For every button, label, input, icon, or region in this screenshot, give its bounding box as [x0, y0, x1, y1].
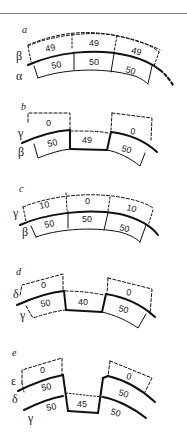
value-e-bottom-1: 50: [45, 401, 57, 413]
value-d-bottom-2: 40: [78, 297, 88, 307]
value-d-top-3: 0: [126, 287, 132, 298]
value-a-bottom-1: 50: [50, 59, 62, 71]
value-c-top-1: 10: [38, 199, 50, 211]
value-b-top-1: 0: [46, 118, 51, 128]
panel-label-a: a: [22, 24, 27, 35]
panel-label-d: d: [16, 266, 22, 277]
panel-label-b: b: [21, 101, 26, 112]
value-d-bottom-1: 50: [40, 297, 52, 309]
layer-label-gamma: γ: [12, 206, 19, 220]
value-e-middle-1: 50: [40, 381, 52, 393]
layer-label-delta: δ: [12, 392, 18, 406]
layer-label-gamma: γ: [27, 411, 34, 425]
layer-label-epsilon: ε: [11, 374, 16, 388]
layer-label-beta: β: [22, 225, 28, 239]
value-e-bottom-2: 45: [77, 399, 87, 409]
layer-label-beta: β: [18, 145, 24, 159]
value-a-top-1: 49: [44, 42, 56, 54]
panel-e: [18, 358, 155, 418]
panel-label-e: e: [12, 347, 17, 358]
panel-label-c: c: [19, 183, 24, 194]
layer-label-gamma: γ: [17, 126, 24, 140]
panel-a: [28, 33, 173, 85]
value-e-bottom-3: 50: [109, 406, 122, 419]
layer-label-beta: β: [16, 49, 22, 63]
layer-label-gamma: γ: [19, 308, 26, 322]
layer-label-delta: δ: [13, 287, 19, 301]
value-c-top-3: 10: [126, 202, 138, 214]
value-c-top-2: 0: [85, 196, 90, 206]
top-rule: [0, 13, 187, 14]
value-d-top-1: 0: [41, 280, 46, 290]
value-b-bottom-2: 49: [82, 135, 92, 145]
value-b-top-3: 0: [130, 126, 136, 137]
value-a-top-3: 49: [131, 45, 143, 57]
value-c-bottom-1: 50: [43, 218, 55, 230]
layer-label-alpha: α: [16, 69, 23, 83]
value-e-middle-3: 50: [117, 387, 129, 399]
value-e-top-1: 0: [40, 365, 45, 375]
value-a-top-2: 49: [89, 38, 99, 48]
diagram-canvas: a β α 49 49 49 50 50 50 b γ β 0 0 50 49 …: [0, 0, 187, 436]
value-c-bottom-2: 50: [82, 214, 92, 224]
value-e-top-3: 0: [126, 371, 133, 382]
value-d-bottom-3: 50: [118, 303, 130, 315]
value-a-bottom-2: 50: [89, 57, 99, 67]
value-b-bottom-1: 50: [46, 137, 58, 149]
value-a-bottom-3: 50: [124, 64, 136, 76]
value-b-bottom-3: 50: [121, 143, 133, 155]
figure: a β α 49 49 49 50 50 50 b γ β 0 0 50 49 …: [0, 0, 187, 436]
